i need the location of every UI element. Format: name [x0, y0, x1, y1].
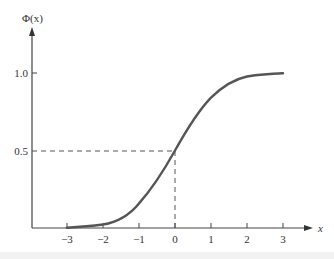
- x-tick-label: 0: [172, 233, 178, 245]
- x-tick-label: 3: [280, 233, 286, 245]
- x-axis-label: x: [317, 222, 323, 234]
- y-axis-arrow-icon: [29, 27, 35, 36]
- x-tick-label: 2: [244, 233, 250, 245]
- cdf-chart: Φ(x) 1.0 0.5 x −3 −2 −1 0 1 2 3: [0, 0, 334, 259]
- x-tick-label: −3: [61, 233, 73, 245]
- y-tick-label-1: 1.0: [14, 67, 28, 79]
- y-tick-label-0-5: 0.5: [14, 145, 28, 157]
- x-tick-label: −2: [97, 233, 109, 245]
- x-axis-arrow-icon: [304, 225, 313, 231]
- x-tick-label: −1: [133, 233, 145, 245]
- x-tick-label: 1: [208, 233, 214, 245]
- bottom-margin: [0, 252, 334, 259]
- x-tick-labels: −3 −2 −1 0 1 2 3: [61, 233, 286, 245]
- y-axis-label: Φ(x): [22, 12, 43, 25]
